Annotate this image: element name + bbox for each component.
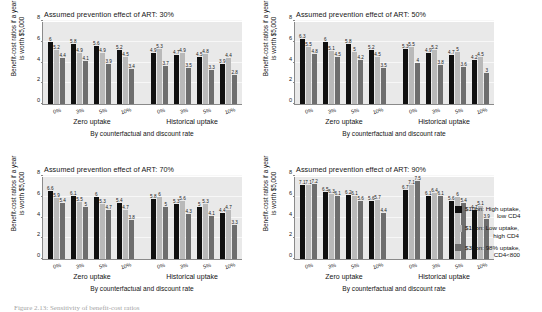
y-axis-title-line2: is worth $5,000	[18, 0, 26, 81]
x-axis-tick-label: 5%	[345, 258, 366, 271]
bar: 5.6	[449, 201, 455, 259]
bar: 5.4	[117, 203, 123, 259]
legend-item[interactable]: $30bn: 98% uptake,CD4<800	[455, 244, 541, 259]
bar: 2.8	[232, 75, 238, 104]
bar-value-label: 5.2	[368, 45, 374, 50]
y-axis-tick-label: 6	[37, 191, 40, 197]
bar-group: 4.753.6	[448, 22, 467, 104]
bar: 5	[197, 207, 203, 259]
bar: 4.7	[174, 55, 180, 104]
bar: 5.6	[180, 201, 186, 259]
bar-value-label: 4	[416, 58, 419, 63]
chart-title: Assumed prevention effect of ART: 90%	[296, 165, 426, 174]
x-axis-group-labels: Zero uptakeHistorical uptake	[294, 118, 494, 125]
x-axis-group-labels: Zero uptakeHistorical uptake	[294, 273, 494, 280]
x-axis-group-label: Zero uptake	[294, 273, 394, 280]
legend-item[interactable]: $10bn: Low uptake,high CD4	[455, 224, 541, 239]
bar: 6.3	[329, 194, 335, 259]
bar: 4.9	[426, 53, 432, 104]
bar: 5.5	[306, 47, 312, 104]
legend-swatch	[455, 244, 462, 251]
bar: 5.2	[117, 50, 123, 104]
bar-value-label: 6	[324, 37, 327, 42]
bar: 5.8	[151, 199, 157, 259]
bar-group: 6.65.95.4	[47, 177, 66, 259]
bar: 5.3	[157, 49, 163, 104]
bar-value-label: 5.8	[345, 39, 351, 44]
y-axis-tick-mark	[41, 20, 43, 21]
bar-value-label: 5.3	[202, 199, 208, 204]
chart-panel-1: Assumed prevention effect of ART: 50%Ben…	[252, 2, 523, 152]
y-axis-tick-label: 8	[289, 15, 292, 21]
bar: 5.6	[358, 201, 364, 259]
bar-value-label: 4.5	[122, 52, 128, 57]
bar-group: 4.74.93.5	[173, 22, 192, 104]
bar: 5.4	[60, 203, 66, 259]
bar: 5.5	[77, 202, 83, 259]
y-axis-tick-label: 0	[37, 253, 40, 259]
bar-value-label: 5.3	[156, 44, 162, 49]
x-axis-tick-label: 5%	[93, 103, 114, 116]
bar-value-label: 4.5	[374, 52, 380, 57]
x-axis-title: By counterfactual and discount rate	[294, 285, 494, 292]
x-axis-tick-label: 5%	[196, 258, 217, 271]
bar-group: 6.15.55	[70, 177, 89, 259]
bar-group: 65.14.5	[322, 22, 341, 104]
legend-label-line1: $10bn: Low uptake,	[465, 224, 519, 231]
y-axis-tick-mark	[293, 20, 295, 21]
bar-value-label: 4.1	[208, 211, 214, 216]
bar-value-label: 4.9	[179, 48, 185, 53]
bar: 6.4	[432, 193, 438, 259]
legend-swatch	[455, 206, 462, 213]
bar-value-label: 4.4	[380, 208, 386, 213]
gridline	[295, 175, 494, 176]
x-axis-tick-label: 10%	[219, 258, 240, 271]
bar: 4.9	[151, 53, 157, 104]
x-axis-tick-label: 5%	[345, 103, 366, 116]
bar-value-label: 4.2	[357, 55, 363, 60]
bar-value-label: 5.7	[374, 195, 380, 200]
x-axis-tick-label: 0%	[298, 103, 319, 116]
y-axis-tick-label: 6	[37, 36, 40, 42]
bar: 6.5	[323, 192, 329, 259]
chart-title: Assumed prevention effect of ART: 70%	[44, 165, 174, 174]
bar: 4.9	[180, 53, 186, 104]
chart-panel-2: Assumed prevention effect of ART: 70%Ben…	[0, 157, 271, 307]
bar-value-label: 6	[158, 192, 161, 197]
y-axis-tick-label: 8	[289, 170, 292, 176]
bar-group: 5.44.73.8	[116, 177, 135, 259]
bar-group: 4.24.53	[471, 22, 490, 104]
bar-value-label: 4.7	[105, 205, 111, 210]
bar: 7.1	[306, 185, 312, 259]
bar-value-label: 3.8	[437, 60, 443, 65]
bar: 3.5	[381, 68, 387, 104]
x-axis-tick-label: 10%	[368, 103, 389, 116]
bar-group: 3.94.42.8	[219, 22, 238, 104]
bar-value-label: 3.4	[128, 64, 134, 69]
bar: 3.9	[106, 64, 112, 104]
bar-value-label: 6.6	[47, 186, 53, 191]
figure-caption: Figure 2.13: Sensitivity of benefit-cost…	[14, 304, 140, 312]
plot-area: 0246865.24.45.84.94.15.64.93.95.24.53.44…	[42, 22, 242, 105]
bar: 6.1	[352, 196, 358, 259]
bar: 5.6	[94, 46, 100, 104]
x-axis-tick-label: 3%	[173, 103, 194, 116]
legend-item[interactable]: $10bn: High uptake,low CD4	[455, 205, 541, 220]
bar-value-label: 5.6	[357, 196, 363, 201]
legend-label-line2: CD4<800	[465, 251, 520, 258]
x-axis-ticks: 0%3%5%10%0%3%5%10%	[42, 261, 242, 273]
y-axis-tick-label: 4	[289, 212, 292, 218]
bar-value-label: 6	[95, 192, 98, 197]
bar-value-label: 7.2	[311, 179, 317, 184]
plot-area: 024686.65.95.46.15.5565.34.75.44.73.85.8…	[42, 177, 242, 260]
plot-area: 024686.35.54.865.14.55.854.25.24.53.55.3…	[294, 22, 494, 105]
x-axis-tick-label: 0%	[46, 103, 67, 116]
bar-group: 65.24.4	[47, 22, 66, 104]
bar: 3.4	[129, 69, 135, 104]
bar: 3	[484, 73, 490, 104]
bar-value-label: 4.3	[185, 209, 191, 214]
bar-group: 5.64.93.9	[93, 22, 112, 104]
legend-label: $10bn: Low uptake,high CD4	[465, 224, 519, 239]
bar: 5.9	[54, 198, 60, 259]
gridline	[43, 175, 242, 176]
